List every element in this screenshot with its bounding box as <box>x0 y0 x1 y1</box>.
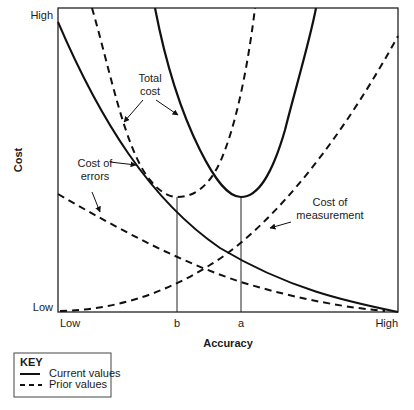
cost-of-measurement-prior-line <box>60 36 398 311</box>
errors-arrow-current <box>110 162 136 165</box>
legend-title: KEY <box>20 356 43 368</box>
y-axis-title: Cost <box>12 147 24 172</box>
errors-label-2: errors <box>81 170 110 182</box>
total-cost-current-line <box>155 8 316 197</box>
legend-prior-label: Prior values <box>49 378 108 390</box>
measurement-arrow <box>270 222 291 228</box>
x-axis-title: Accuracy <box>203 337 253 349</box>
legend: KEY Current values Prior values <box>14 353 121 397</box>
total-cost-prior-line <box>92 8 255 197</box>
errors-label-1: Cost of <box>78 157 114 169</box>
errors-arrow-prior <box>92 192 100 212</box>
y-low-label: Low <box>33 301 53 313</box>
total-cost-label-2: cost <box>140 85 160 97</box>
total-cost-arrow-prior <box>124 100 143 122</box>
total-cost-arrow-current <box>156 100 178 115</box>
x-a-label: a <box>238 317 245 329</box>
cost-accuracy-chart: Total cost Cost of errors Cost of measur… <box>0 0 414 410</box>
total-cost-label-1: Total <box>138 72 161 84</box>
x-low-label: Low <box>60 317 80 329</box>
measurement-label-2: measurement <box>296 209 363 221</box>
y-high-label: High <box>30 9 53 21</box>
measurement-label-1: Cost of <box>313 196 349 208</box>
x-high-label: High <box>375 317 398 329</box>
x-b-label: b <box>174 317 180 329</box>
